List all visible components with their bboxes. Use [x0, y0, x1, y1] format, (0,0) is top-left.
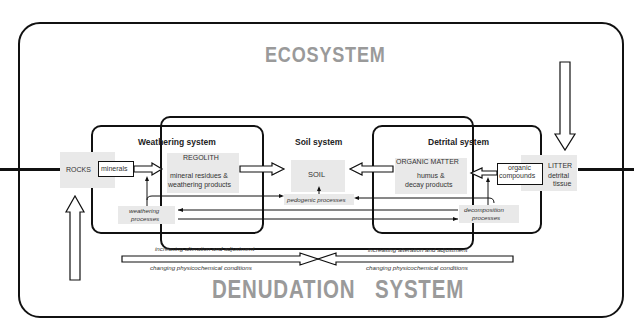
gradient-arrow-left-icon	[318, 253, 513, 265]
minerals-to-regolith-arrow-icon	[134, 163, 162, 175]
regolith-to-soil-arrow-icon	[240, 163, 284, 175]
flow-arrows	[0, 0, 634, 330]
input-arrow-up-icon	[66, 196, 84, 280]
gradient-arrow-right-icon	[122, 253, 318, 265]
litter-input-arrow-icon	[555, 62, 575, 150]
organic-to-soil-arrow-icon	[350, 163, 393, 175]
compounds-to-organic-arrow-icon	[471, 168, 497, 178]
